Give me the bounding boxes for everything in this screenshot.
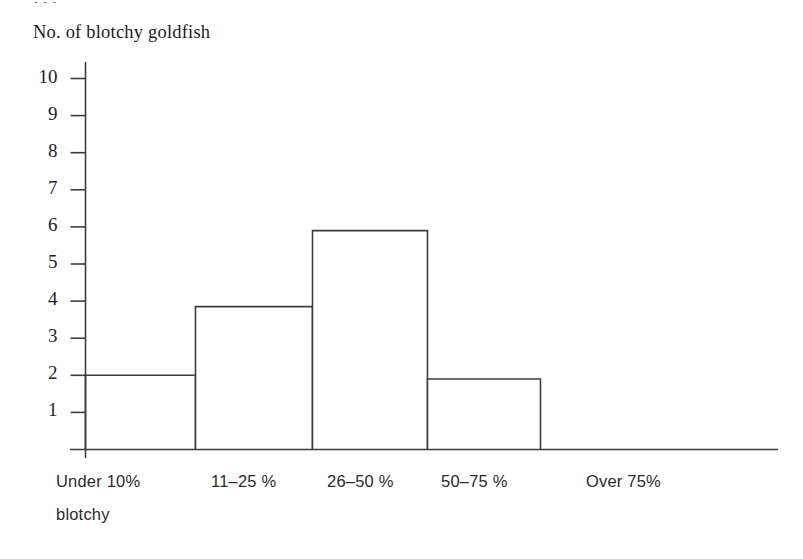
- bar-series: [86, 231, 541, 450]
- histogram-chart: . . . No. of blotchy goldfish 1234567891…: [0, 0, 803, 559]
- y-tick-label: 10: [28, 66, 58, 88]
- y-tick-label: 7: [28, 177, 58, 199]
- y-axis-ticks: [71, 79, 86, 413]
- histogram-bar: [313, 231, 428, 450]
- y-tick-label: 6: [28, 214, 58, 236]
- histogram-bar: [196, 307, 313, 450]
- x-axis-sublabel: blotchy: [56, 505, 110, 524]
- y-tick-label: 9: [28, 103, 58, 125]
- y-tick-label: 2: [28, 362, 58, 384]
- histogram-bar: [428, 379, 541, 449]
- y-tick-label: 8: [28, 140, 58, 162]
- y-tick-label: 3: [28, 325, 58, 347]
- y-tick-label: 5: [28, 251, 58, 273]
- x-tick-label: 50–75 %: [441, 472, 508, 491]
- x-tick-label: Under 10%: [56, 472, 140, 491]
- y-tick-label: 4: [28, 288, 58, 310]
- histogram-bar: [86, 375, 196, 449]
- x-tick-label: Over 75%: [586, 472, 661, 491]
- y-tick-label: 1: [28, 399, 58, 421]
- x-tick-label: 11–25 %: [211, 472, 276, 491]
- x-tick-label: 26–50 %: [327, 472, 394, 491]
